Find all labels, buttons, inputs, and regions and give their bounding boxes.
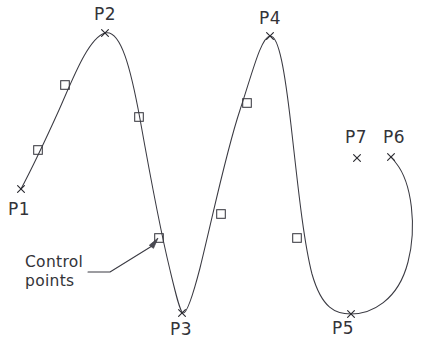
point-label-p3: P3 <box>170 321 192 338</box>
control-point-square[interactable] <box>243 99 252 108</box>
point-label-p7: P7 <box>345 129 367 146</box>
spline-diagram-svg <box>0 0 424 353</box>
diagram-canvas: P1P2P3P4P5P6P7 Control points <box>0 0 424 353</box>
point-label-p5: P5 <box>332 320 354 337</box>
control-point-square[interactable] <box>61 81 70 90</box>
point-label-p6: P6 <box>383 129 405 146</box>
control-points-annotation: Control points <box>25 253 83 291</box>
leader-line <box>88 246 152 272</box>
annotation-line-2: points <box>25 272 83 291</box>
control-point-square[interactable] <box>293 234 302 243</box>
control-point-markers <box>34 81 302 243</box>
annotation-leader <box>88 238 158 272</box>
point-label-p4: P4 <box>259 10 281 27</box>
annotation-line-1: Control <box>25 253 83 272</box>
point-label-p2: P2 <box>94 6 116 23</box>
point-label-p1: P1 <box>8 201 30 218</box>
point-marker-p7[interactable] <box>354 155 361 162</box>
control-point-square[interactable] <box>217 210 226 219</box>
point-marker-p1[interactable] <box>18 186 25 193</box>
point-marker-p4[interactable] <box>267 33 274 40</box>
point-marker-p6[interactable] <box>388 154 395 161</box>
